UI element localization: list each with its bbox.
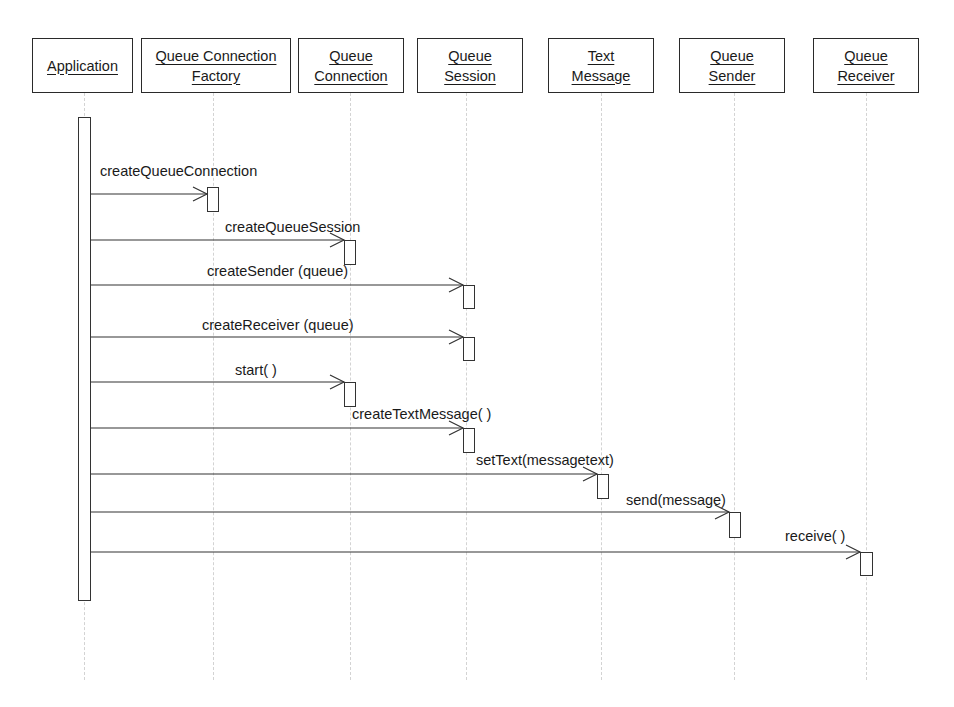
message-label-create-receiver: createReceiver (queue) [202,317,354,333]
message-label-receive: receive( ) [785,528,845,544]
message-arrows [0,0,954,707]
message-label-start: start( ) [235,362,277,378]
message-label-create-text-message: createTextMessage( ) [352,406,491,422]
message-label-create-sender: createSender (queue) [207,263,348,279]
message-label-send: send(message) [626,492,726,508]
message-label-create-queue-connection: createQueueConnection [100,163,257,179]
message-label-create-queue-session: createQueueSession [225,219,360,235]
message-label-set-text: setText(messagetext) [476,452,614,468]
